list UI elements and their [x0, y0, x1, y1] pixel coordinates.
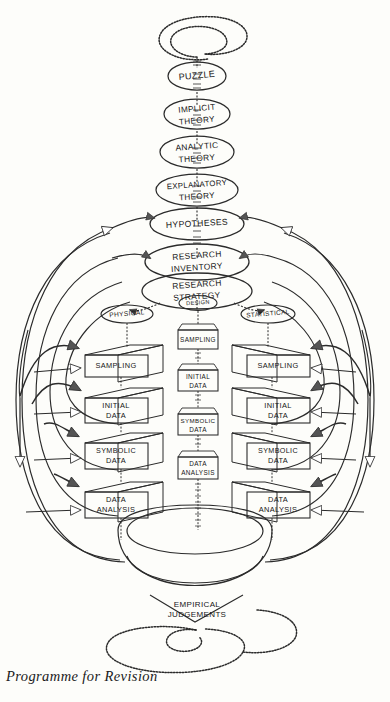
box-label-r-sampling: SAMPLING	[258, 361, 299, 370]
box-label-r-data-analysis-1: DATA	[268, 495, 288, 504]
box-label-r-initial-data-2: DATA	[268, 411, 288, 420]
box-label-c-data-analysis-2: ANALYSIS	[181, 469, 215, 476]
box-label-c-sampling: SAMPLING	[180, 336, 216, 343]
box-label-r-symbolic-data-2: DATA	[268, 456, 288, 465]
box-label-l-sampling: SAMPLING	[96, 361, 137, 370]
box-label-c-initial-data-2: DATA	[189, 382, 207, 389]
bowl-label-line1: EMPIRICAL	[174, 600, 220, 609]
box-label-r-symbolic-data-1: SYMBOLIC	[258, 446, 298, 455]
bowl-label-line2: JUDGEMENTS	[168, 610, 227, 619]
box-label-c-data-analysis-1: DATA	[189, 460, 207, 467]
box-label-l-symbolic-data-1: SYMBOLIC	[96, 446, 136, 455]
box-label-l-initial-data-1: INITIAL	[102, 401, 130, 410]
box-label-l-symbolic-data-2: DATA	[106, 456, 126, 465]
programme-for-revision-diagram: PUZZLE IMPLICIT THEORY ANALYTIC THEORY E…	[0, 0, 390, 702]
box-label-l-initial-data-2: DATA	[106, 411, 126, 420]
box-label-c-initial-data-1: INITIAL	[186, 373, 210, 380]
box-label-c-symbolic-data-1: SYMBOLIC	[181, 417, 216, 424]
figure-caption: Programme for Revision	[6, 668, 158, 685]
box-label-l-data-analysis-2: ANALYSIS	[97, 505, 135, 514]
box-label-r-initial-data-1: INITIAL	[264, 401, 292, 410]
box-label-c-symbolic-data-2: DATA	[189, 426, 207, 433]
box-label-l-data-analysis-1: DATA	[106, 495, 126, 504]
